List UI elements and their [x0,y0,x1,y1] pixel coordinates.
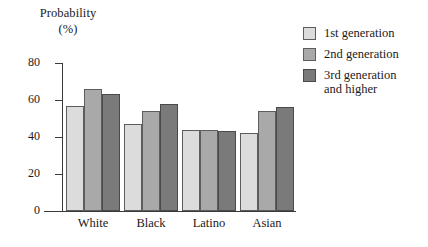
legend-item: 1st generation [303,26,425,41]
y-tick: 80 [44,63,62,64]
legend: 1st generation2nd generation3rd generati… [303,26,425,103]
x-axis-line [44,211,296,212]
legend-swatch-icon [303,69,316,82]
y-tick-label: 0 [34,203,40,218]
bar [240,133,258,211]
plot-area: 020406080 WhiteBlackLatinoAsian [44,58,296,214]
y-axis-title-line-2: (%) [8,22,128,38]
y-axis-title-line-1: Probability [8,6,128,22]
bar [142,111,160,211]
bar [200,130,218,211]
bar [218,131,236,211]
y-tick-label: 40 [28,129,40,144]
x-axis-category-label: Latino [182,216,236,231]
y-tick: 20 [44,174,62,175]
bar [160,104,178,211]
legend-item: 2nd generation [303,47,425,62]
y-tick: 40 [44,137,62,138]
legend-label: 1st generation [324,26,394,41]
bar [258,111,276,211]
y-tick-mark [55,63,62,64]
y-tick-mark [55,100,62,101]
legend-label: 2nd generation [324,47,399,62]
bar-group: Latino [182,58,236,211]
bar [102,94,120,211]
x-axis-category-label: Black [124,216,178,231]
legend-item: 3rd generation and higher [303,68,425,98]
y-tick-mark [55,211,62,212]
bars-layer: WhiteBlackLatinoAsian [63,58,296,211]
y-tick: 60 [44,100,62,101]
y-tick-mark [55,137,62,138]
y-tick-label: 60 [28,92,40,107]
x-axis-category-label: Asian [240,216,294,231]
bar [84,89,102,211]
y-tick-mark [55,174,62,175]
bar [276,107,294,211]
bar [182,130,200,211]
bar-group: Asian [240,58,294,211]
y-tick: 0 [44,211,62,212]
bar [66,106,84,211]
y-axis-title: Probability (%) [8,6,128,37]
legend-label: 3rd generation and higher [324,68,397,98]
y-tick-label: 80 [28,55,40,70]
bar-group: White [66,58,120,211]
y-tick-label: 20 [28,166,40,181]
legend-swatch-icon [303,27,316,40]
x-axis-category-label: White [66,216,120,231]
bar-group: Black [124,58,178,211]
bar [124,124,142,211]
legend-swatch-icon [303,48,316,61]
